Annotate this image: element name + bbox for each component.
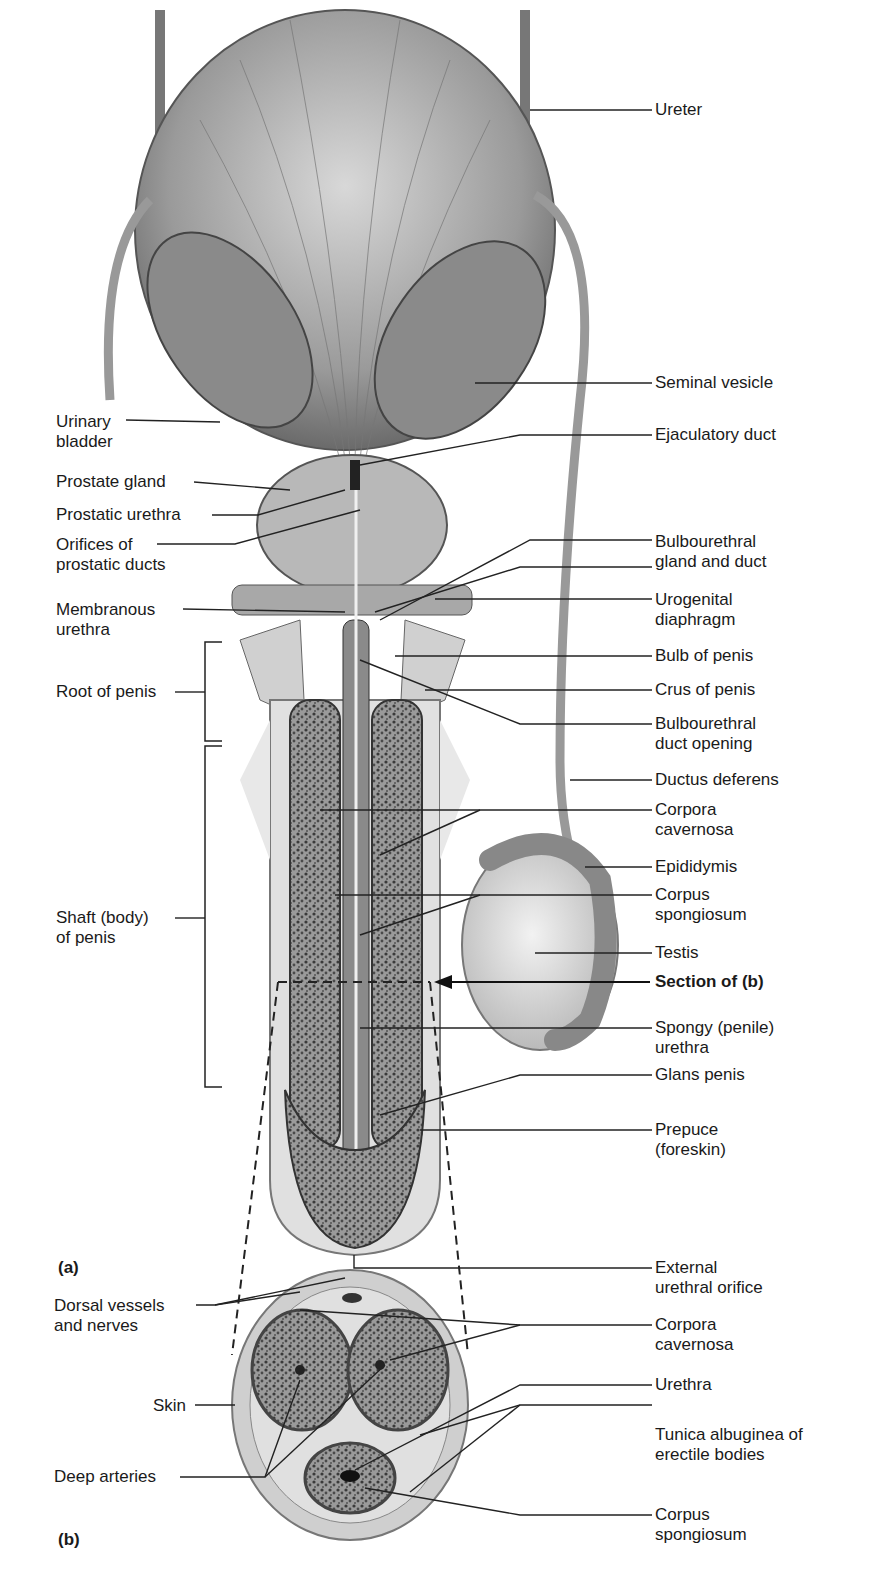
label-line: erectile bodies xyxy=(655,1445,803,1465)
label-skin: Skin xyxy=(153,1396,186,1416)
panel-label-b: (b) xyxy=(58,1530,80,1550)
label-ureter: Ureter xyxy=(655,100,702,120)
label-epididymis: Epididymis xyxy=(655,857,737,877)
label-line: Spongy (penile) xyxy=(655,1018,774,1038)
label-ejaculatory-duct: Ejaculatory duct xyxy=(655,425,776,445)
label-urethra: Urethra xyxy=(655,1375,712,1395)
label-crus-of-penis: Crus of penis xyxy=(655,680,755,700)
label-line: Urinary xyxy=(56,412,113,432)
label-line: and nerves xyxy=(54,1316,165,1336)
label-line: Bulbourethral xyxy=(655,532,767,552)
label-line: (foreskin) xyxy=(655,1140,726,1160)
label-line: gland and duct xyxy=(655,552,767,572)
label-line: External xyxy=(655,1258,763,1278)
root-bracket xyxy=(205,642,222,741)
corpora-cavernosa-drawing xyxy=(290,700,340,1150)
label-line: prostatic ducts xyxy=(56,555,166,575)
label-line: Corpora xyxy=(655,800,733,820)
label-bulb-of-penis: Bulb of penis xyxy=(655,646,753,666)
label-section-of-b: Section of (b) xyxy=(655,972,764,992)
label-line: Prepuce xyxy=(655,1120,726,1140)
panel-label-a: (a) xyxy=(58,1258,79,1278)
label-line: diaphragm xyxy=(655,610,735,630)
label-line: Corpus xyxy=(655,885,747,905)
label-external-urethral-orifice: External urethral orifice xyxy=(655,1258,763,1298)
label-line: Bulbourethral xyxy=(655,714,756,734)
label-bulbourethral-duct-opening: Bulbourethral duct opening xyxy=(655,714,756,754)
label-tunica-albuginea: Tunica albuginea of erectile bodies xyxy=(655,1425,803,1465)
label-shaft-of-penis: Shaft (body) of penis xyxy=(56,908,149,948)
label-line: urethra xyxy=(56,620,155,640)
label-deep-arteries: Deep arteries xyxy=(54,1467,156,1487)
label-line: Orifices of xyxy=(56,535,166,555)
label-bulbourethral-gland-duct: Bulbourethral gland and duct xyxy=(655,532,767,572)
label-line: Corpora xyxy=(655,1315,733,1335)
label-corpora-cavernosa-b: Corpora cavernosa xyxy=(655,1315,733,1355)
label-dorsal-vessels-nerves: Dorsal vessels and nerves xyxy=(54,1296,165,1336)
label-line: bladder xyxy=(56,432,113,452)
label-prostate-gland: Prostate gland xyxy=(56,472,166,492)
label-testis: Testis xyxy=(655,943,698,963)
label-line: Tunica albuginea of xyxy=(655,1425,803,1445)
label-prepuce: Prepuce (foreskin) xyxy=(655,1120,726,1160)
label-line: duct opening xyxy=(655,734,756,754)
label-corpus-spongiosum-b: Corpus spongiosum xyxy=(655,1505,747,1545)
label-urogenital-diaphragm: Urogenital diaphragm xyxy=(655,590,735,630)
label-seminal-vesicle: Seminal vesicle xyxy=(655,373,773,393)
label-line: urethral orifice xyxy=(655,1278,763,1298)
label-ductus-deferens: Ductus deferens xyxy=(655,770,779,790)
label-line: of penis xyxy=(56,928,149,948)
label-line: Membranous xyxy=(56,600,155,620)
label-line: Shaft (body) xyxy=(56,908,149,928)
label-line: Dorsal vessels xyxy=(54,1296,165,1316)
label-line: Corpus xyxy=(655,1505,747,1525)
label-line: cavernosa xyxy=(655,1335,733,1355)
label-line: spongiosum xyxy=(655,1525,747,1545)
label-membranous-urethra: Membranous urethra xyxy=(56,600,155,640)
label-glans-penis: Glans penis xyxy=(655,1065,745,1085)
label-spongy-urethra: Spongy (penile) urethra xyxy=(655,1018,774,1058)
label-line: cavernosa xyxy=(655,820,733,840)
label-root-of-penis: Root of penis xyxy=(56,682,156,702)
label-corpus-spongiosum-a: Corpus spongiosum xyxy=(655,885,747,925)
label-prostatic-urethra: Prostatic urethra xyxy=(56,505,181,525)
shaft-bracket xyxy=(205,746,222,1087)
label-corpora-cavernosa-a: Corpora cavernosa xyxy=(655,800,733,840)
label-line: urethra xyxy=(655,1038,774,1058)
anatomy-illustration xyxy=(0,0,884,1590)
label-line: Urogenital xyxy=(655,590,735,610)
label-urinary-bladder: Urinary bladder xyxy=(56,412,113,452)
label-line: spongiosum xyxy=(655,905,747,925)
label-orifices-prostatic-ducts: Orifices of prostatic ducts xyxy=(56,535,166,575)
